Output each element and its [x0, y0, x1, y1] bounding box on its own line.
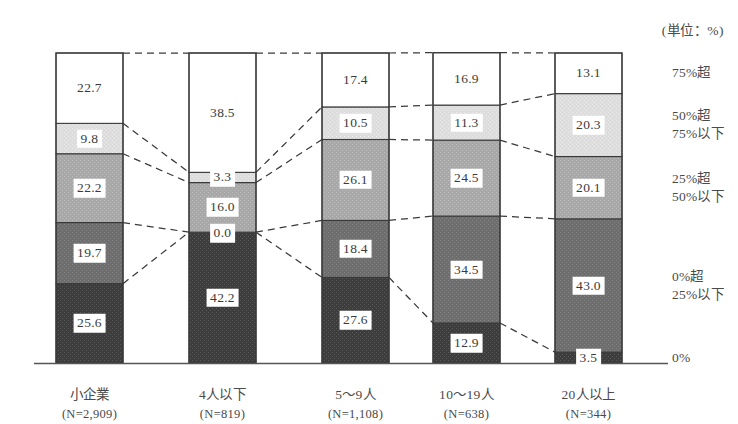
category-label: 5〜9人(N=1,108) — [328, 385, 383, 423]
bar-value-label: 3.5 — [576, 348, 602, 367]
connector-line — [389, 105, 433, 107]
legend-label-line1: 75%超 — [672, 64, 711, 82]
bar-value-label: 22.7 — [77, 81, 102, 95]
bar-value-label: 34.5 — [450, 260, 483, 279]
bar-value-label: 20.3 — [572, 116, 605, 135]
connector-line — [123, 232, 189, 283]
category-sample-size: (N=1,108) — [328, 405, 383, 423]
legend-item: 0%超25%以下 — [672, 268, 724, 304]
category-sample-size: (N=344) — [562, 405, 616, 423]
connector-line — [500, 216, 555, 219]
bar-value-label: 43.0 — [572, 276, 605, 295]
category-name: 5〜9人 — [335, 387, 376, 402]
bar-value-label: 25.6 — [73, 314, 106, 333]
connector-line — [123, 154, 189, 183]
connector-line — [123, 123, 189, 172]
category-label: 20人以上(N=344) — [562, 385, 616, 423]
bar-value-label: 9.8 — [77, 129, 103, 148]
bar-value-label: 22.2 — [73, 179, 106, 198]
connector-line — [256, 232, 322, 277]
chart-plot-area — [0, 0, 738, 424]
bar-value-label: 10.5 — [339, 114, 372, 133]
legend-label-line1: 0% — [672, 349, 690, 367]
category-sample-size: (N=819) — [199, 405, 246, 423]
bar-value-label: 18.4 — [339, 240, 372, 259]
connector-line — [123, 223, 189, 233]
bar-value-label: 13.1 — [576, 67, 601, 81]
bar-value-label: 38.5 — [210, 106, 235, 120]
connector-line — [500, 94, 555, 105]
bar-value-label: 16.9 — [454, 72, 479, 86]
category-label: 10〜19人(N=638) — [439, 385, 494, 423]
category-name: 20人以上 — [562, 387, 616, 402]
bar-value-label: 42.2 — [206, 288, 239, 307]
legend-label-line2: 75%以下 — [672, 125, 724, 143]
legend-label-line1: 50%超 — [672, 107, 724, 125]
legend-item: 0% — [672, 349, 690, 367]
legend-item: 25%超50%以下 — [672, 170, 724, 206]
legend-label-line1: 0%超 — [672, 268, 724, 286]
legend-label-line1: 25%超 — [672, 170, 724, 188]
connector-line — [256, 107, 322, 172]
connector-line — [389, 216, 433, 220]
category-name: 小企業 — [70, 387, 110, 402]
bar-value-label: 3.3 — [210, 168, 236, 187]
bar-value-label: 16.0 — [206, 198, 239, 217]
category-label: 4人以下(N=819) — [199, 385, 246, 423]
bar-value-label: 12.9 — [450, 334, 483, 353]
bar-value-label: 24.5 — [450, 169, 483, 188]
connector-line — [389, 139, 433, 140]
connector-line — [256, 139, 322, 182]
category-sample-size: (N=638) — [439, 405, 494, 423]
bar-value-label: 17.4 — [343, 73, 368, 87]
bar-value-label: 26.1 — [339, 171, 372, 190]
connector-line — [500, 140, 555, 156]
connector-line — [256, 220, 322, 232]
bar-value-label: 20.1 — [572, 178, 605, 197]
bar-value-label: 19.7 — [73, 244, 106, 263]
connector-line — [500, 323, 555, 352]
stacked-bar-chart: (単位：%) — [0, 0, 738, 424]
legend-item: 50%超75%以下 — [672, 107, 724, 143]
legend-item: 75%超 — [672, 64, 711, 82]
bar-value-label: 0.0 — [210, 224, 236, 243]
connector-line — [389, 277, 433, 323]
bar-value-label: 11.3 — [450, 113, 482, 132]
category-name: 10〜19人 — [439, 387, 494, 402]
category-name: 4人以下 — [199, 387, 246, 402]
bar-value-label: 27.6 — [339, 311, 372, 330]
legend-label-line2: 50%以下 — [672, 188, 724, 206]
category-sample-size: (N=2,909) — [62, 405, 117, 423]
legend-label-line2: 25%以下 — [672, 286, 724, 304]
category-label: 小企業(N=2,909) — [62, 385, 117, 423]
